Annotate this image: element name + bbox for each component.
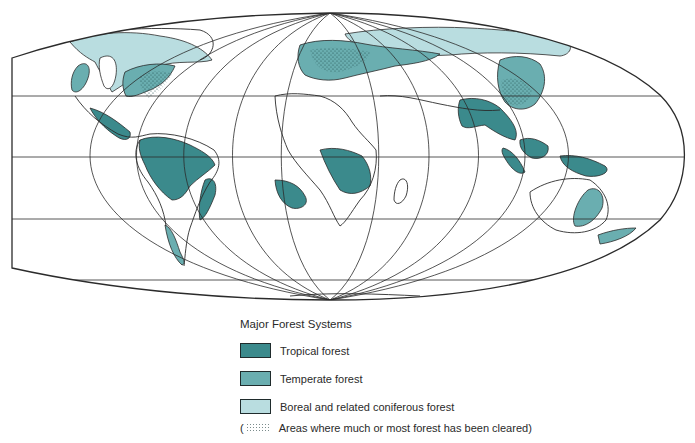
legend-item-boreal: Boreal and related coniferous forest: [240, 397, 660, 416]
open-paren: (: [240, 422, 244, 434]
legend-label: Temperate forest: [280, 373, 363, 385]
tropical-swatch: [240, 343, 271, 358]
legend-item-cleared: ( Areas where much or most forest has be…: [240, 422, 660, 434]
legend-label: Boreal and related coniferous forest: [280, 401, 454, 413]
legend: Major Forest Systems Tropical forest Tem…: [240, 318, 660, 434]
legend-label: Areas where much or most forest has been…: [279, 422, 532, 434]
legend-title: Major Forest Systems: [240, 318, 660, 330]
legend-item-tropical: Tropical forest: [240, 341, 660, 360]
legend-item-temperate: Temperate forest: [240, 369, 660, 388]
legend-label: Tropical forest: [280, 345, 349, 357]
world-forest-map: [0, 0, 695, 310]
stipple-swatch-icon: [246, 423, 270, 433]
boreal-swatch: [240, 399, 271, 414]
temperate-swatch: [240, 371, 271, 386]
map-body: [55, 27, 636, 296]
